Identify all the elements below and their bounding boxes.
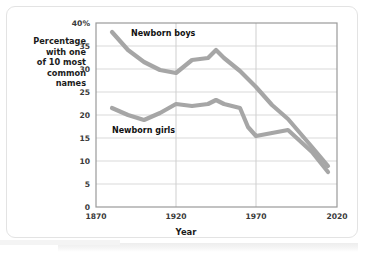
series-label-newborn-boys: Newborn boys <box>131 29 195 38</box>
chart-page: Percentage with one of 10 most common na… <box>0 0 368 260</box>
line-chart: Percentage with one of 10 most common na… <box>0 0 368 260</box>
plot-canvas <box>0 0 368 260</box>
series-label-newborn-girls: Newborn girls <box>112 126 175 135</box>
series-line-newborn-boys <box>112 32 328 166</box>
